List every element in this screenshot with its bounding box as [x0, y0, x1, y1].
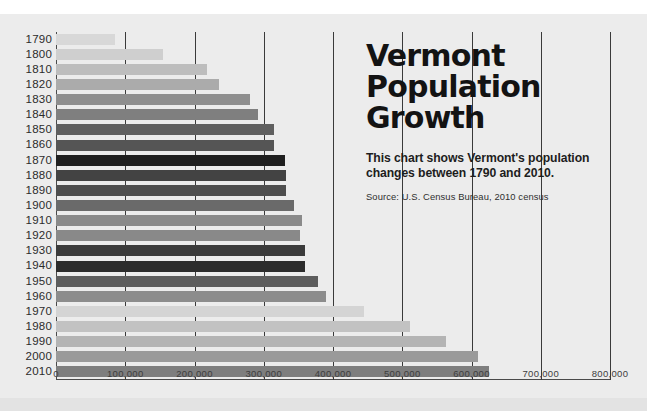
year-label-1910: 1910 [4, 215, 52, 226]
bar-1940 [56, 261, 305, 272]
bar-1860 [56, 140, 274, 151]
x-tick-label-300000: 300,000 [246, 368, 282, 379]
year-label-1820: 1820 [4, 79, 52, 90]
chart-canvas: 1790180018101820183018401850186018701880… [0, 14, 647, 398]
y-axis-year-labels: 1790180018101820183018401850186018701880… [0, 32, 52, 380]
year-label-1850: 1850 [4, 124, 52, 135]
page-title-line-3: Growth [366, 102, 628, 133]
year-label-1930: 1930 [4, 245, 52, 256]
chart-subtitle: This chart shows Vermont's population ch… [366, 151, 628, 181]
bar-1880 [56, 170, 286, 181]
year-label-1880: 1880 [4, 170, 52, 181]
bar-1840 [56, 109, 258, 120]
year-label-1890: 1890 [4, 185, 52, 196]
x-tick-label-400000: 400,000 [315, 368, 351, 379]
year-label-1830: 1830 [4, 94, 52, 105]
bar-1790 [56, 34, 115, 45]
bar-1960 [56, 291, 326, 302]
year-label-1970: 1970 [4, 306, 52, 317]
year-label-1860: 1860 [4, 139, 52, 150]
x-tick-label-600000: 600,000 [453, 368, 489, 379]
x-tick-label-0: 0 [53, 368, 59, 379]
bar-1870 [56, 155, 285, 166]
page-title: VermontPopulationGrowth [366, 40, 628, 133]
year-label-1790: 1790 [4, 34, 52, 45]
x-tick-label-500000: 500,000 [384, 368, 420, 379]
bar-1990 [56, 336, 446, 347]
year-label-1840: 1840 [4, 109, 52, 120]
bar-1800 [56, 49, 163, 60]
x-tick-label-700000: 700,000 [523, 368, 559, 379]
page-top-margin [0, 0, 647, 14]
bar-1980 [56, 321, 410, 332]
year-label-2010: 2010 [4, 366, 52, 377]
x-tick-label-200000: 200,000 [176, 368, 212, 379]
bar-1970 [56, 306, 364, 317]
bar-1850 [56, 124, 274, 135]
year-label-1800: 1800 [4, 49, 52, 60]
year-label-1980: 1980 [4, 321, 52, 332]
year-label-1950: 1950 [4, 276, 52, 287]
poster-page: 1790180018101820183018401850186018701880… [0, 0, 647, 411]
x-tick-label-100000: 100,000 [107, 368, 143, 379]
title-block: VermontPopulationGrowth This chart shows… [366, 40, 628, 202]
year-label-1870: 1870 [4, 155, 52, 166]
bar-1820 [56, 79, 219, 90]
bar-1950 [56, 276, 318, 287]
year-label-2000: 2000 [4, 351, 52, 362]
year-label-1810: 1810 [4, 64, 52, 75]
bar-1890 [56, 185, 286, 196]
chart-source: Source: U.S. Census Bureau, 2010 census [366, 191, 628, 202]
page-bottom-margin [0, 398, 647, 411]
year-label-1940: 1940 [4, 260, 52, 271]
year-label-1960: 1960 [4, 291, 52, 302]
bar-1920 [56, 230, 300, 241]
x-tick-label-800000: 800,000 [592, 368, 628, 379]
year-label-1900: 1900 [4, 200, 52, 211]
year-label-1920: 1920 [4, 230, 52, 241]
bar-1910 [56, 215, 302, 226]
page-title-line-2: Population [366, 71, 628, 102]
year-label-1990: 1990 [4, 336, 52, 347]
page-title-line-1: Vermont [366, 40, 628, 71]
bar-1810 [56, 64, 207, 75]
bar-2000 [56, 351, 478, 362]
bar-1830 [56, 94, 250, 105]
bar-1930 [56, 245, 305, 256]
bar-1900 [56, 200, 294, 211]
